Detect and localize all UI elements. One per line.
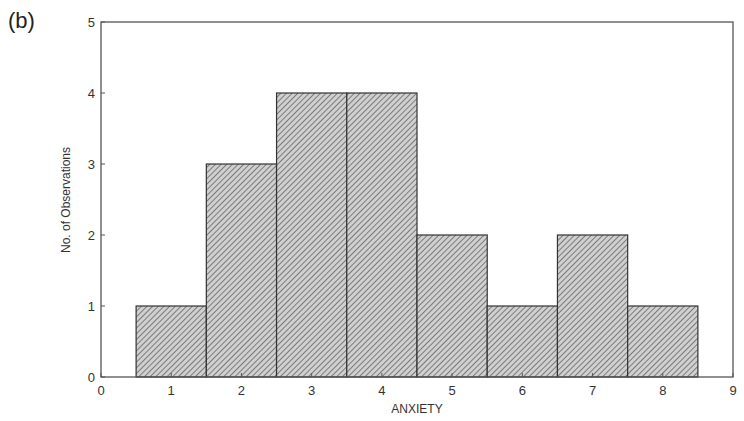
x-tick-label: 1 — [168, 383, 175, 398]
histogram-bar — [347, 93, 417, 377]
histogram-bar — [136, 306, 206, 377]
x-tick-label: 6 — [519, 383, 526, 398]
x-tick-label: 9 — [729, 383, 736, 398]
y-tick-label: 5 — [88, 15, 95, 30]
histogram-chart: 012345 0123456789 ANXIETY No. of Observa… — [0, 0, 744, 421]
histogram-bar — [628, 306, 698, 377]
x-tick-label: 0 — [97, 383, 104, 398]
y-tick-label: 3 — [88, 157, 95, 172]
y-tick-label: 1 — [88, 299, 95, 314]
x-axis-label: ANXIETY — [391, 402, 442, 416]
histogram-bar — [417, 235, 487, 377]
histogram-bar — [487, 306, 557, 377]
y-axis-ticks: 012345 — [88, 15, 105, 385]
histogram-bar — [557, 235, 627, 377]
y-tick-label: 4 — [88, 86, 95, 101]
x-tick-label: 5 — [448, 383, 455, 398]
x-tick-label: 8 — [659, 383, 666, 398]
bars-group — [136, 93, 698, 377]
histogram-bar — [277, 93, 347, 377]
y-tick-label: 2 — [88, 228, 95, 243]
x-tick-label: 3 — [308, 383, 315, 398]
histogram-bar — [206, 164, 276, 377]
x-tick-label: 4 — [378, 383, 385, 398]
y-tick-label: 0 — [88, 370, 95, 385]
x-tick-label: 7 — [589, 383, 596, 398]
x-tick-label: 2 — [238, 383, 245, 398]
y-axis-label: No. of Observations — [59, 147, 73, 253]
